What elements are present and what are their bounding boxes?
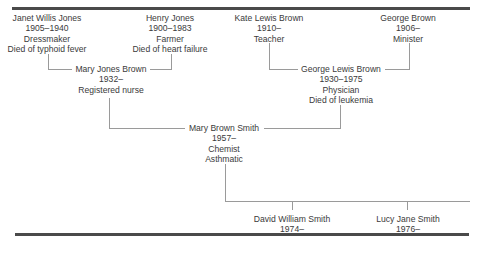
person-occupation: Minister: [380, 34, 435, 44]
person-name: Kate Lewis Brown: [235, 13, 304, 23]
person-henry-jones: Henry Jones 1900–1983 Farmer Died of hea…: [133, 13, 208, 55]
person-dates: 1930–1975: [301, 74, 381, 84]
person-name: Mary Jones Brown: [75, 64, 146, 74]
connector-janet-down: [48, 54, 49, 69]
connector-lucy-up: [407, 201, 408, 210]
person-dates: 1906–: [380, 23, 435, 33]
connector-mary-jb-down: [109, 98, 110, 128]
person-dates: 1932–: [75, 74, 146, 84]
bottom-rule: [15, 233, 469, 236]
person-name: George Brown: [380, 13, 435, 23]
person-george-lewis-brown: George Lewis Brown 1930–1975 Physician D…: [301, 64, 381, 106]
person-lucy-jane-smith: Lucy Jane Smith 1976–: [376, 214, 440, 235]
connector-mary-jb-across: [109, 128, 185, 129]
person-name: Mary Brown Smith: [189, 123, 259, 133]
connector-kate-across: [269, 69, 298, 70]
connector-mary-bs-down: [225, 164, 226, 201]
connector-george-lb-down: [340, 105, 341, 128]
person-kate-lewis-brown: Kate Lewis Brown 1910– Teacher: [235, 13, 304, 44]
person-note: Died of typhoid fever: [8, 44, 87, 54]
person-dates: 1905–1940: [8, 23, 87, 33]
connector-david-up: [292, 201, 293, 210]
person-note: Died of heart failure: [133, 44, 208, 54]
connector-henry-across: [150, 69, 172, 70]
connector-kate-down: [269, 43, 270, 69]
person-david-william-smith: David William Smith 1974–: [254, 214, 330, 235]
person-mary-jones-brown: Mary Jones Brown 1932– Registered nurse: [75, 64, 146, 95]
person-janet-willis-jones: Janet Willis Jones 1905–1940 Dressmaker …: [8, 13, 87, 55]
person-name: Lucy Jane Smith: [376, 214, 440, 224]
connector-george-lb-across: [264, 128, 341, 129]
connector-george-down: [409, 43, 410, 69]
person-occupation: Registered nurse: [75, 85, 146, 95]
person-occupation: Farmer: [133, 34, 208, 44]
connector-george-across: [385, 69, 410, 70]
person-note: Died of leukemia: [301, 95, 381, 105]
person-george-brown: George Brown 1906– Minister: [380, 13, 435, 44]
person-dates: 1957–: [189, 133, 259, 143]
connector-janet-across: [48, 69, 72, 70]
person-name: George Lewis Brown: [301, 64, 381, 74]
connector-henry-down: [171, 54, 172, 69]
connector-children-bar: [225, 201, 470, 202]
person-occupation: Chemist: [189, 144, 259, 154]
person-dates: 1910–: [235, 23, 304, 33]
person-name: Janet Willis Jones: [8, 13, 87, 23]
person-occupation: Physician: [301, 85, 381, 95]
person-name: David William Smith: [254, 214, 330, 224]
person-dates: 1900–1983: [133, 23, 208, 33]
top-rule: [12, 7, 470, 10]
person-name: Henry Jones: [133, 13, 208, 23]
person-note: Asthmatic: [189, 154, 259, 164]
person-mary-brown-smith: Mary Brown Smith 1957– Chemist Asthmatic: [189, 123, 259, 165]
person-occupation: Dressmaker: [8, 34, 87, 44]
